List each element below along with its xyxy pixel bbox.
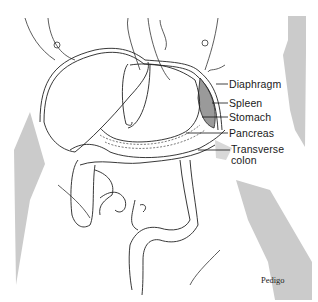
artist-credit: Pedigo <box>261 275 285 285</box>
nipple-left <box>54 42 60 48</box>
shadow-shape-left <box>14 112 45 285</box>
intestines <box>71 160 198 295</box>
body-outline <box>25 18 225 285</box>
label-spleen: Spleen <box>229 98 262 109</box>
label-pancreas: Pancreas <box>229 128 274 139</box>
nipple-right <box>202 40 208 46</box>
label-stomach: Stomach <box>229 112 271 123</box>
stomach <box>100 64 200 142</box>
label-diaphragm: Diaphragm <box>229 79 281 90</box>
liver <box>44 62 148 152</box>
diaphragm <box>40 48 222 130</box>
label-transverse-colon-line2: colon <box>231 155 257 166</box>
shadow-shape-right <box>283 16 306 147</box>
transverse-colon <box>70 130 225 165</box>
